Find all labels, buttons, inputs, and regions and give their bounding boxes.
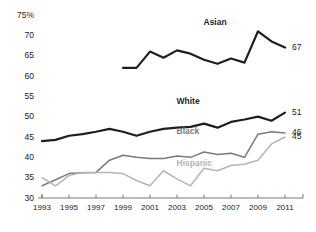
y-tick-label-70: 70: [8, 30, 34, 40]
series-line-white: [42, 113, 285, 141]
x-tick-label-2001: 2001: [136, 203, 164, 212]
x-tick-label-1999: 1999: [109, 203, 137, 212]
x-tick-label-2011: 2011: [271, 203, 299, 212]
line-chart-plot: [0, 0, 316, 232]
y-tick-label-55: 55: [8, 91, 34, 101]
y-tick-label-30: 30: [8, 193, 34, 203]
y-tick-label-60: 60: [8, 71, 34, 81]
end-value-asian: 67: [292, 42, 301, 52]
y-tick-label-40: 40: [8, 152, 34, 162]
y-tick-label-75: 75%: [8, 10, 34, 20]
y-tick-label-65: 65: [8, 50, 34, 60]
y-tick-label-35: 35: [8, 172, 34, 182]
x-tick-label-2003: 2003: [163, 203, 191, 212]
x-tick-label-1997: 1997: [82, 203, 110, 212]
series-label-black: Black: [177, 126, 200, 136]
series-line-asian: [123, 31, 285, 68]
end-value-hispanic: 45: [292, 131, 301, 141]
x-tick-label-2009: 2009: [244, 203, 272, 212]
series-label-hispanic: Hispanic: [177, 158, 212, 168]
series-label-white: White: [177, 96, 200, 106]
data-lines-group: [42, 31, 285, 186]
axis-group: [38, 194, 303, 198]
x-tick-label-2005: 2005: [190, 203, 218, 212]
series-line-hispanic: [42, 137, 285, 186]
end-value-white: 51: [292, 107, 301, 117]
x-tick-label-2007: 2007: [217, 203, 245, 212]
y-tick-label-50: 50: [8, 111, 34, 121]
y-tick-label-45: 45: [8, 132, 34, 142]
series-line-black: [42, 132, 285, 186]
chart-container: 75%706560555045403530 199319951997199920…: [0, 0, 316, 232]
x-tick-label-1995: 1995: [55, 203, 83, 212]
series-label-asian: Asian: [204, 17, 227, 27]
x-tick-label-1993: 1993: [28, 203, 56, 212]
